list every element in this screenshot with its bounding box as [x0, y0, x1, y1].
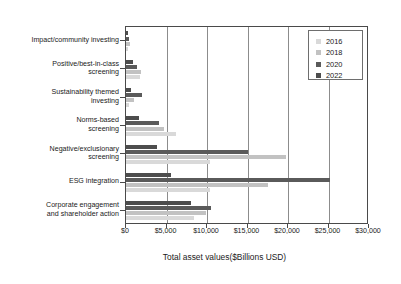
bar-group: [126, 112, 367, 140]
bar: [126, 178, 330, 182]
bar-group: [126, 140, 367, 168]
y-axis-label: Impact/community investing: [1, 36, 119, 45]
y-axis-label: Positive/best-in-class screening: [1, 60, 119, 77]
legend-label: 2016: [326, 37, 342, 46]
bar: [126, 160, 210, 164]
x-axis-tick-label: $30,000: [347, 227, 389, 235]
x-axis-tick-label: $10,000: [185, 227, 227, 235]
bar: [126, 37, 129, 41]
x-axis-tick-label: $0: [104, 227, 146, 235]
bar: [126, 60, 133, 64]
x-axis-tick-label: $5,000: [145, 227, 187, 235]
x-axis-tick-label: $20,000: [266, 227, 308, 235]
x-axis-title: Total asset values($Billions USD): [0, 252, 401, 262]
bar: [126, 132, 176, 136]
bar-group: [126, 197, 367, 225]
legend-label: 2020: [326, 60, 342, 69]
bar: [126, 75, 140, 79]
y-axis-category-labels: Impact/community investingPositive/best-…: [0, 26, 122, 224]
legend-item: 2022: [316, 71, 362, 81]
bar: [126, 183, 268, 187]
legend-swatch-icon: [316, 73, 321, 78]
y-axis-label: Negative/exclusionary screening: [1, 145, 119, 162]
legend-swatch-icon: [316, 39, 321, 44]
legend-item: 2016: [316, 36, 362, 46]
bar: [126, 150, 248, 154]
bar: [126, 103, 129, 107]
bar-group: [126, 84, 367, 112]
bar: [126, 116, 139, 120]
bar: [126, 211, 206, 215]
bar-chart: Impact/community investingPositive/best-…: [0, 0, 401, 284]
y-axis-label: Norms-based screening: [1, 116, 119, 133]
legend-swatch-icon: [316, 62, 321, 67]
y-axis-label: Sustainability themed investing: [1, 88, 119, 105]
bar: [126, 42, 130, 46]
bar: [126, 65, 137, 69]
bar: [126, 88, 131, 92]
bar: [126, 216, 194, 220]
x-axis-title-text: Total asset values($Billions USD): [115, 252, 286, 262]
bar-group: [126, 168, 367, 196]
bar: [126, 173, 171, 177]
legend-item: 2020: [316, 59, 362, 69]
bar: [126, 47, 128, 51]
y-axis-label: Corporate engagement and shareholder act…: [1, 201, 119, 218]
bar: [126, 206, 211, 210]
bar: [126, 31, 128, 35]
x-axis-tick-label: $25,000: [307, 227, 349, 235]
legend-swatch-icon: [316, 50, 321, 55]
legend-item: 2018: [316, 48, 362, 58]
bar: [126, 93, 142, 97]
x-axis-tick-label: $15,000: [226, 227, 268, 235]
chart-legend: 2016201820202022: [308, 30, 363, 80]
y-axis-label: ESG integration: [1, 177, 119, 186]
bar: [126, 155, 286, 159]
legend-label: 2022: [326, 71, 342, 80]
bar: [126, 98, 134, 102]
bar: [126, 201, 191, 205]
bar: [126, 188, 210, 192]
bar: [126, 121, 159, 125]
bar: [126, 70, 141, 74]
bar: [126, 127, 164, 131]
legend-label: 2018: [326, 48, 342, 57]
bar: [126, 145, 157, 149]
